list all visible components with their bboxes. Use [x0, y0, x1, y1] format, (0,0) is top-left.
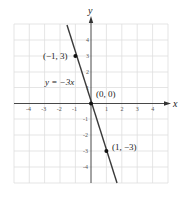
- svg-text:4: 4: [86, 37, 89, 43]
- point-neg1-3: [73, 54, 77, 58]
- point-origin: [89, 102, 93, 106]
- svg-text:3: 3: [136, 106, 139, 112]
- svg-text:2: 2: [86, 69, 89, 75]
- svg-text:3: 3: [86, 53, 89, 59]
- equation-label: y = −3x: [44, 77, 74, 87]
- svg-text:4: 4: [151, 106, 154, 112]
- y-axis-label: y: [87, 5, 93, 16]
- coordinate-plane: x y -4 -3 -2 -1 1 2 3 4 4 3 2 1 -1 -2 -3…: [0, 0, 182, 200]
- x-axis-arrow-icon: [164, 101, 171, 105]
- svg-text:-1: -1: [72, 106, 77, 112]
- svg-text:-1: -1: [83, 116, 88, 122]
- point-label-origin: (0, 0): [96, 89, 116, 99]
- point-1-neg3: [104, 149, 108, 153]
- svg-text:-3: -3: [41, 106, 46, 112]
- svg-text:-3: -3: [83, 148, 88, 154]
- x-axis-label: x: [172, 98, 178, 109]
- svg-text:-2: -2: [57, 106, 62, 112]
- x-tick-labels: -4 -3 -2 -1 1 2 3 4: [26, 106, 154, 112]
- svg-text:-4: -4: [83, 164, 88, 170]
- y-axis-arrow-icon: [89, 16, 93, 23]
- point-label-neg1-3: (−1, 3): [43, 51, 68, 61]
- svg-text:2: 2: [120, 106, 123, 112]
- svg-text:1: 1: [105, 106, 108, 112]
- point-label-1-neg3: (1, −3): [112, 142, 137, 152]
- svg-text:-2: -2: [83, 132, 88, 138]
- svg-text:-4: -4: [26, 106, 31, 112]
